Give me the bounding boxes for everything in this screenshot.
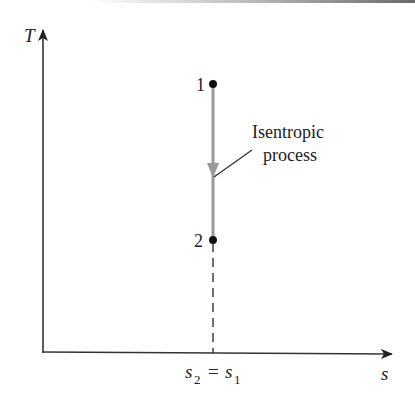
label-leader-line <box>214 150 252 177</box>
state-point-2-label: 2 <box>194 231 203 251</box>
x-tick-s1-subscript: 1 <box>234 372 241 387</box>
process-label-line2: process <box>263 145 317 165</box>
process-direction-arrow-icon <box>207 163 219 178</box>
x-tick-equals: = <box>208 361 219 382</box>
x-tick-s2: s <box>185 361 192 382</box>
ts-diagram: T s 1 2 Isentropic process s 2 = s 1 <box>0 0 415 412</box>
x-tick-s2-subscript: 2 <box>194 372 201 387</box>
x-tick-label: s 2 = s 1 <box>185 361 241 387</box>
state-point-2 <box>209 236 217 244</box>
x-tick-s1: s <box>225 361 232 382</box>
process-label-line1: Isentropic <box>252 122 324 142</box>
state-point-1-label: 1 <box>196 75 205 95</box>
x-axis <box>42 352 392 354</box>
y-axis-label: T <box>24 25 36 46</box>
x-axis-label: s <box>381 363 388 384</box>
state-point-1 <box>209 80 217 88</box>
